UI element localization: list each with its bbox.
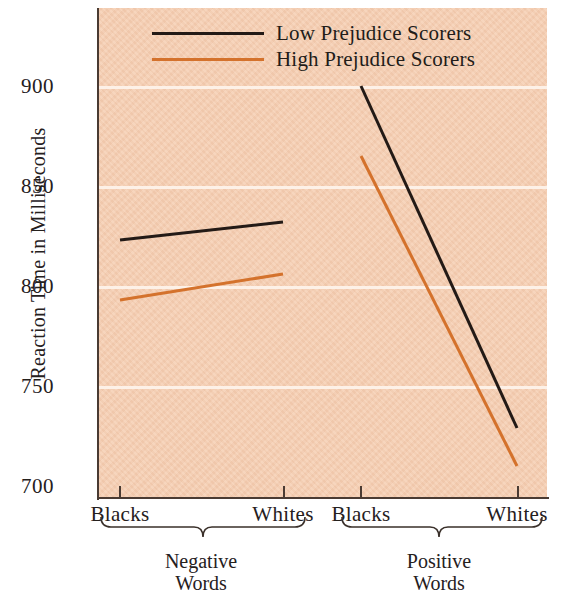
group-label-positive-words: Positive Words: [407, 550, 471, 595]
xtick-label-pos-blacks: Blacks: [332, 502, 391, 527]
xtick-neg-blacks: [119, 486, 121, 498]
y-axis-title: Reaction Time in Milliseconds: [27, 54, 50, 454]
gridline-900: [99, 86, 547, 89]
legend-swatch-high-prejudice: [152, 58, 264, 61]
legend-swatch-low-prejudice: [152, 32, 264, 35]
legend-item-low-prejudice: Low Prejudice Scorers: [152, 20, 472, 46]
xtick-label-neg-whites: Whites: [252, 502, 313, 527]
legend-label-high-prejudice: High Prejudice Scorers: [276, 47, 475, 72]
gridline-750: [99, 386, 547, 389]
y-axis-line: [97, 8, 99, 500]
gridline-850: [99, 186, 547, 189]
x-axis-line: [97, 497, 549, 499]
legend-item-high-prejudice: High Prejudice Scorers: [152, 46, 472, 72]
xtick-label-neg-blacks: Blacks: [91, 502, 150, 527]
xtick-pos-blacks: [360, 486, 362, 498]
gridline-800: [99, 286, 547, 289]
group-braces: [101, 517, 542, 537]
panel-texture: [99, 8, 547, 498]
group-label-negative-words: Negative Words: [165, 550, 237, 595]
xtick-pos-whites: [517, 486, 519, 498]
xtick-neg-whites: [283, 486, 285, 498]
ytick-label-700: 700: [21, 476, 54, 497]
legend: Low Prejudice Scorers High Prejudice Sco…: [152, 20, 472, 72]
chart-figure: 900 850 800 750 700 Reaction Time in Mil…: [0, 0, 565, 610]
xtick-label-pos-whites: Whites: [486, 502, 547, 527]
legend-label-low-prejudice: Low Prejudice Scorers: [276, 21, 471, 46]
plot-area: [99, 8, 547, 498]
